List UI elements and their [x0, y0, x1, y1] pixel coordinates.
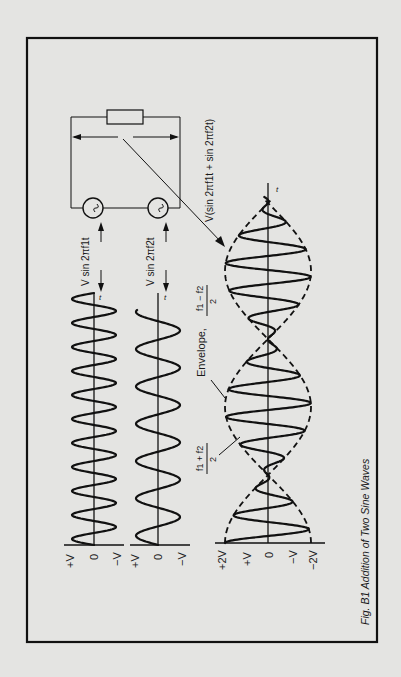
arrowhead-left-icon	[72, 134, 81, 140]
wave-sum-zero: 0	[263, 552, 275, 558]
figure-caption: Fig. B1 Addition of Two Sine Waves	[359, 458, 371, 625]
wave-f1-time-label: t	[99, 293, 102, 302]
wave-sum-plot: t +2V +V 0 −V −2V f1 − f2 2 Envelope, f1…	[195, 183, 325, 570]
ac-source-icon	[83, 198, 103, 218]
carrier-freq-denominator: 2	[208, 457, 218, 462]
wave-f2-minus-v: −V	[176, 552, 188, 566]
wave-f2-zero: 0	[152, 554, 164, 560]
circuit-diagram: V(sin 2πf1t + sin 2πf2t)	[71, 110, 225, 247]
envelope-freq-denominator: 2	[208, 299, 218, 304]
wave-f2-time-label: t	[164, 293, 167, 302]
wave-f1-plus-v: +V	[64, 554, 76, 568]
wave-f2-plus-v: +V	[129, 554, 141, 568]
sum-formula-label: V(sin 2πf1t + sin 2πf2t)	[204, 119, 215, 222]
carrier-freq-numerator: f1 + f2	[195, 446, 205, 471]
figure-page: V(sin 2πf1t + sin 2πf2t) V sin 2πf1t V s…	[0, 0, 401, 677]
envelope-label: Envelope,	[195, 328, 207, 377]
ac-source-2	[148, 198, 168, 218]
wave-f1-plot: t +V 0 −V	[64, 293, 124, 568]
wave-sum-minus-v: −V	[287, 550, 299, 564]
carrier-leader-line	[219, 437, 240, 455]
wave-sum-time-label: t	[276, 185, 279, 194]
resistor-icon	[107, 110, 143, 124]
arrowhead-down-icon	[98, 283, 104, 292]
ac-source-1	[83, 198, 103, 218]
figure-canvas: V(sin 2πf1t + sin 2πf2t) V sin 2πf1t V s…	[0, 0, 401, 677]
envelope-freq-numerator: f1 − f2	[195, 286, 205, 311]
wave-sum-plus-2v: +2V	[216, 549, 228, 570]
arrowhead-up-icon	[163, 222, 169, 231]
circuit-wire-right	[143, 117, 180, 208]
arrowhead-down-icon	[163, 283, 169, 292]
ac-source-icon	[148, 198, 168, 218]
wave-sum-minus-2v: −2V	[307, 549, 319, 570]
source2-formula-label: V sin 2πf2t	[145, 237, 156, 286]
wave-f1-zero: 0	[88, 554, 100, 560]
source1-formula-label: V sin 2πf1t	[80, 237, 91, 286]
arrowhead-right-icon	[170, 134, 179, 140]
source-wave-links	[98, 222, 169, 292]
wave-f1-minus-v: −V	[111, 552, 123, 566]
wave-f2-plot: t +V 0 −V	[129, 293, 190, 568]
wave-sum-plus-v: +V	[241, 552, 253, 566]
envelope-leader-line	[211, 380, 225, 398]
arrowhead-up-icon	[98, 222, 104, 231]
circuit-wire-left	[71, 117, 107, 208]
